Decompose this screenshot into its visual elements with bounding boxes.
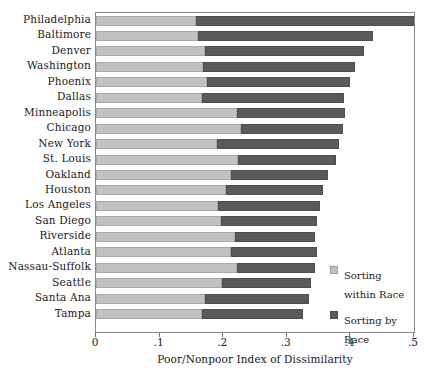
category-label: Atlanta — [0, 246, 91, 256]
bar-segment — [202, 93, 344, 103]
category-label: Seattle — [0, 277, 91, 287]
dissimilarity-bar-chart: PhiladelphiaBaltimoreDenverWashingtonPho… — [0, 0, 425, 380]
bar-segment — [218, 201, 320, 211]
bar-segment — [96, 124, 241, 134]
legend-item-sorting-within-race: Sortingwithin Race — [330, 264, 418, 302]
bar-segment — [96, 139, 217, 149]
category-label: Baltimore — [0, 29, 91, 39]
category-label: Minneapolis — [0, 107, 91, 117]
bar-segment — [241, 124, 343, 134]
category-axis-labels: PhiladelphiaBaltimoreDenverWashingtonPho… — [0, 12, 91, 333]
legend-label-by-race: Sorting byRace — [344, 315, 397, 345]
category-label: Houston — [0, 184, 91, 194]
category-label: Philadelphia — [0, 14, 91, 24]
bar-segment — [96, 46, 205, 56]
bar-segment — [96, 309, 202, 319]
legend-label-by-race-line1: Sorting by — [344, 315, 397, 326]
axis-tick-label: .2 — [217, 337, 227, 348]
x-axis-title: Poor/Nonpoor Index of Dissimilarity — [95, 353, 415, 365]
category-label: New York — [0, 138, 91, 148]
bar-segment — [205, 46, 364, 56]
category-label: St. Louis — [0, 153, 91, 163]
legend-label-within-race-line1: Sorting — [344, 270, 382, 281]
bar-segment — [237, 263, 315, 273]
bar-segment — [96, 263, 237, 273]
bar-segment — [96, 31, 198, 41]
legend-item-sorting-by-race: Sorting byRace — [330, 309, 418, 347]
legend-label-by-race-line2: Race — [344, 334, 369, 345]
bar-segment — [96, 185, 226, 195]
bar-segment — [96, 108, 237, 118]
category-label: Nassau-Suffolk — [0, 261, 91, 271]
bar-segment — [203, 62, 356, 72]
category-label: Dallas — [0, 91, 91, 101]
axis-tick-label: .1 — [154, 337, 164, 348]
legend-label-within-race: Sortingwithin Race — [344, 270, 404, 300]
bar-segment — [231, 170, 328, 180]
category-label: Oakland — [0, 169, 91, 179]
bar-segment — [226, 185, 323, 195]
bar-segment — [96, 232, 235, 242]
bar-segment — [205, 294, 309, 304]
bar-segment — [96, 77, 207, 87]
bar-segment — [96, 294, 205, 304]
bar-segment — [196, 16, 414, 26]
bar-segment — [198, 31, 373, 41]
bar-segment — [231, 247, 317, 257]
bar-segment — [222, 278, 311, 288]
bar-segment — [96, 170, 231, 180]
legend-swatch-icon-within-race — [330, 266, 338, 274]
chart-legend: Sortingwithin Race Sorting byRace — [330, 264, 418, 354]
bar-segment — [96, 216, 221, 226]
bar-segment — [207, 77, 350, 87]
bar-segment — [96, 93, 202, 103]
category-label: Phoenix — [0, 76, 91, 86]
bar-segment — [235, 232, 315, 242]
bar-segment — [96, 62, 203, 72]
axis-tick-label: 0 — [92, 337, 99, 348]
bar-segment — [96, 16, 196, 26]
bar-segment — [96, 155, 238, 165]
axis-tick-label: .3 — [281, 337, 291, 348]
category-label: San Diego — [0, 215, 91, 225]
legend-swatch-icon-by-race — [330, 311, 338, 319]
bar-segment — [221, 216, 318, 226]
legend-label-within-race-line2: within Race — [344, 289, 404, 300]
category-label: Riverside — [0, 230, 91, 240]
category-label: Tampa — [0, 308, 91, 318]
bar-segment — [237, 108, 345, 118]
bar-segment — [217, 139, 339, 149]
bar-segment — [96, 278, 222, 288]
category-label: Santa Ana — [0, 292, 91, 302]
bar-segment — [202, 309, 302, 319]
category-label: Washington — [0, 60, 91, 70]
category-label: Chicago — [0, 122, 91, 132]
bar-segment — [96, 247, 231, 257]
bar-segment — [96, 201, 218, 211]
category-label: Los Angeles — [0, 199, 91, 209]
bar-segment — [238, 155, 336, 165]
category-label: Denver — [0, 45, 91, 55]
